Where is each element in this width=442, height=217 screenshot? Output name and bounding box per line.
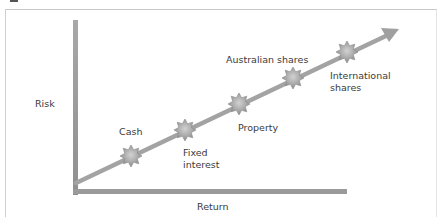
- y-axis: [73, 20, 78, 195]
- marker-fixed-interest-icon: [174, 119, 196, 141]
- label-australian-shares: Australian shares: [226, 54, 308, 66]
- x-axis-label: Return: [197, 201, 229, 213]
- label-international-shares: International shares: [330, 70, 391, 94]
- marker-international-shares-icon: [336, 41, 358, 63]
- label-international-shares-line2: shares: [330, 82, 391, 94]
- label-fixed-interest: Fixed interest: [183, 147, 219, 171]
- label-cash: Cash: [119, 126, 142, 138]
- risk-return-diagram: [0, 0, 442, 217]
- label-property: Property: [238, 122, 278, 134]
- label-fixed-interest-line2: interest: [183, 159, 219, 171]
- marker-property-icon: [228, 93, 250, 115]
- label-fixed-interest-line1: Fixed: [183, 147, 219, 159]
- label-international-shares-line1: International: [330, 70, 391, 82]
- marker-australian-shares-icon: [282, 67, 304, 89]
- x-axis: [73, 189, 347, 194]
- marker-cash-icon: [120, 145, 142, 167]
- y-axis-label: Risk: [35, 98, 55, 110]
